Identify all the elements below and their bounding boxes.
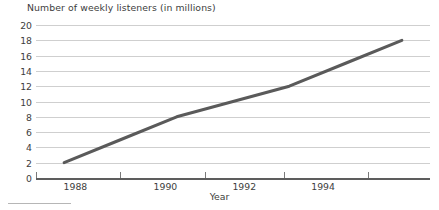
x-axis-tick bbox=[120, 172, 121, 178]
x-axis-title: Year bbox=[0, 191, 439, 202]
x-axis-ticks: 1988199019921994 bbox=[0, 0, 439, 210]
x-axis-tick bbox=[368, 172, 369, 178]
x-axis-tick bbox=[205, 172, 206, 178]
x-axis-tick bbox=[284, 172, 285, 178]
footnote-divider bbox=[8, 203, 71, 204]
line-chart-figure: Number of weekly listeners (in millions)… bbox=[0, 0, 439, 210]
x-axis-tick bbox=[36, 172, 37, 178]
